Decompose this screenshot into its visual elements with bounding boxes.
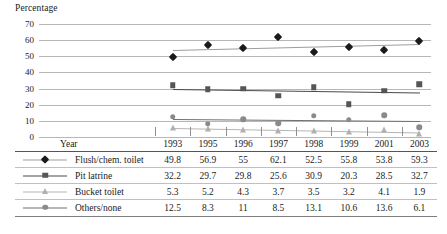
legend-entry-others-none[interactable]: Others/none [15, 200, 155, 216]
table-cell-value: 3.2 [331, 184, 366, 200]
year-text: 1993 [163, 139, 182, 149]
table-cell-value: 5.3 [155, 184, 190, 200]
year-text: 1996 [234, 139, 253, 149]
y-tick-label: 30 [25, 84, 34, 93]
table-cell-value: 55.8 [331, 152, 366, 168]
year-separator-icon [296, 127, 297, 136]
y-tick-label: 40 [25, 68, 34, 77]
legend-label: Flush/chem. toilet [75, 155, 144, 165]
data-point-marker [311, 128, 317, 134]
legend-label: Others/none [75, 203, 121, 213]
table-cell-value: 52.5 [296, 152, 331, 168]
data-point-marker [239, 44, 247, 52]
data-point-marker [381, 112, 387, 118]
legend-entry-bucket-toilet[interactable]: Bucket toilet [15, 184, 155, 200]
data-point-marker [168, 52, 176, 60]
legend-marker-diamond-icon [41, 155, 49, 163]
table-cell-value: 49.8 [155, 152, 190, 168]
table-cell-value: 11 [226, 200, 261, 216]
table-cell-value: 28.5 [367, 168, 402, 184]
data-point-marker [346, 117, 352, 123]
table-cell-value: 8.5 [261, 200, 296, 216]
table-cell-value: 62.1 [261, 152, 296, 168]
year-separator-icon [261, 127, 262, 136]
header-year-1997: 1997 [261, 136, 296, 152]
year-text: 1998 [304, 139, 323, 149]
y-tick-label: 70 [25, 20, 34, 29]
header-year-label: Year [15, 136, 155, 152]
y-tick-label: 20 [25, 100, 34, 109]
y-tick-label: 60 [25, 36, 34, 45]
data-point-marker [240, 86, 246, 92]
data-point-marker [240, 126, 246, 132]
table-row: Bucket toilet5.35.24.33.73.53.24.11.9 [15, 184, 437, 200]
table-row: Pit latrine32.229.729.825.630.920.328.53… [15, 168, 437, 184]
table-cell-value: 5.2 [190, 184, 225, 200]
year-separator-icon [367, 127, 368, 136]
table-cell-value: 32.7 [402, 168, 437, 184]
table-cell-value: 53.8 [367, 152, 402, 168]
gridline [39, 105, 431, 106]
table-cell-value: 32.2 [155, 168, 190, 184]
table-row: Flush/chem. toilet49.856.95562.152.555.8… [15, 152, 437, 168]
legend-entry-pit-latrine[interactable]: Pit latrine [15, 168, 155, 184]
legend-marker-triangle-icon [42, 187, 48, 193]
header-year-2003: 2003 [402, 136, 437, 152]
table-cell-value: 59.3 [402, 152, 437, 168]
data-point-marker [311, 113, 317, 119]
legend-marker-circle-icon [42, 204, 48, 210]
data-point-marker [205, 86, 211, 92]
chart-plot-area: 010203040506070 [39, 24, 431, 137]
data-point-marker [309, 48, 317, 56]
table-header-row: Year 1993 1995 1996 1997 1998 1999 2001 … [15, 136, 437, 152]
table-cell-value: 55 [226, 152, 261, 168]
header-year-1998: 1998 [296, 136, 331, 152]
data-point-marker [381, 88, 387, 94]
gridline [39, 24, 431, 25]
data-point-marker [380, 46, 388, 54]
table-cell-value: 29.7 [190, 168, 225, 184]
table-row: Others/none12.58.3118.513.110.613.66.1 [15, 200, 437, 216]
data-point-marker [276, 93, 282, 99]
legend-label: Bucket toilet [75, 187, 124, 197]
year-text: 1999 [339, 139, 358, 149]
data-point-marker [240, 116, 246, 122]
header-year-1995: 1995 [190, 136, 225, 152]
percentage-sanitation-chart-figure: Percentage 010203040506070 Year 1993 199… [0, 0, 447, 234]
table-cell-value: 56.9 [190, 152, 225, 168]
table-cell-value: 6.1 [402, 200, 437, 216]
year-separator-icon [190, 127, 191, 136]
data-point-marker [417, 124, 423, 130]
y-axis-title: Percentage [15, 3, 58, 13]
table-cell-value: 20.3 [331, 168, 366, 184]
table-cell-value: 30.9 [296, 168, 331, 184]
legend-label: Pit latrine [75, 171, 112, 181]
table-cell-value: 25.6 [261, 168, 296, 184]
table-cell-value: 10.6 [331, 200, 366, 216]
header-year-1996: 1996 [226, 136, 261, 152]
data-point-marker [311, 84, 317, 90]
year-separator-icon [226, 127, 227, 136]
year-header-text: Year [15, 139, 78, 149]
y-tick-label: 10 [25, 116, 34, 125]
table-bottom-rule [15, 216, 437, 217]
data-point-marker [346, 128, 352, 134]
data-point-marker [381, 127, 387, 133]
table-cell-value: 3.7 [261, 184, 296, 200]
year-separator-icon [402, 127, 403, 136]
year-text: 1997 [269, 139, 288, 149]
data-point-marker [417, 81, 423, 87]
legend-entry-flush-chem-toilet[interactable]: Flush/chem. toilet [15, 152, 155, 168]
data-point-marker [276, 121, 282, 127]
data-point-marker [346, 101, 352, 107]
data-point-marker [170, 114, 176, 120]
table-cell-value: 29.8 [226, 168, 261, 184]
data-point-marker [170, 82, 176, 88]
legend-swatch [23, 207, 67, 208]
legend-marker-square-icon [42, 172, 48, 178]
data-point-marker [170, 125, 176, 131]
data-point-marker [345, 43, 353, 51]
table-cell-value: 8.3 [190, 200, 225, 216]
table-cell-value: 3.5 [296, 184, 331, 200]
data-point-marker [275, 127, 281, 133]
